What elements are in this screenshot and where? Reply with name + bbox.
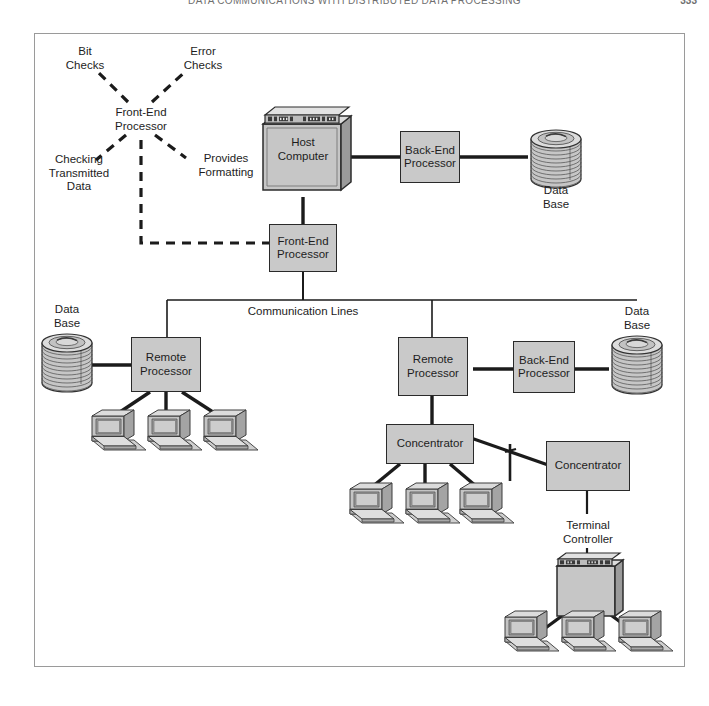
terminal-controller-label: Terminal Controller bbox=[558, 519, 618, 546]
terminal bbox=[460, 483, 514, 523]
back-end-processor-right-label: Back-End Processor bbox=[518, 354, 570, 381]
annotation-label-bit-checks: Bit Checks bbox=[45, 45, 125, 72]
database-left-label: Data Base bbox=[41, 303, 93, 330]
back-end-processor-right[interactable]: Back-End Processor bbox=[513, 341, 575, 393]
terminal bbox=[562, 611, 616, 651]
database-right-symbol bbox=[612, 336, 662, 394]
concentrator-right[interactable]: Concentrator bbox=[546, 441, 630, 491]
back-end-processor-top-label: Back-End Processor bbox=[404, 144, 456, 171]
spoke-bit-checks bbox=[96, 70, 128, 102]
concentrator-right-label: Concentrator bbox=[555, 459, 621, 473]
annotation-hub-label: Front-End Processor bbox=[97, 106, 185, 133]
terminal bbox=[350, 483, 404, 523]
back-end-processor-top[interactable]: Back-End Processor bbox=[400, 131, 460, 183]
remote-processor-left-label: Remote Processor bbox=[140, 351, 192, 378]
host-computer-label: Host Computer bbox=[270, 136, 336, 163]
database-right-label: Data Base bbox=[611, 305, 663, 332]
diagram-links bbox=[92, 157, 637, 632]
database-top-right-label: Data Base bbox=[530, 184, 582, 211]
annotation-label-checking-transmitted: Checking Transmitted Data bbox=[32, 153, 126, 194]
terminal bbox=[148, 410, 202, 450]
terminal bbox=[619, 611, 673, 651]
spoke-error-checks bbox=[152, 70, 187, 102]
concentrator-left-label: Concentrator bbox=[397, 437, 463, 451]
annotation-label-provides-formatting: Provides Formatting bbox=[180, 152, 272, 179]
database-top-right-symbol bbox=[531, 130, 581, 188]
terminal bbox=[204, 410, 258, 450]
remote-processor-left[interactable]: Remote Processor bbox=[131, 337, 201, 392]
terminal bbox=[505, 611, 559, 651]
terminal bbox=[406, 483, 460, 523]
database-left-symbol bbox=[42, 334, 92, 392]
annotation-label-error-checks: Error Checks bbox=[158, 45, 248, 72]
concentrator-left[interactable]: Concentrator bbox=[386, 424, 474, 464]
terminal bbox=[92, 410, 146, 450]
front-end-processor[interactable]: Front-End Processor bbox=[269, 224, 337, 272]
terminal-controller-symbol bbox=[557, 553, 623, 616]
communication-lines-label: Communication Lines bbox=[232, 305, 374, 319]
front-end-processor-label: Front-End Processor bbox=[277, 235, 329, 262]
remote-processor-right[interactable]: Remote Processor bbox=[398, 337, 468, 396]
remote-processor-right-label: Remote Processor bbox=[407, 353, 459, 380]
